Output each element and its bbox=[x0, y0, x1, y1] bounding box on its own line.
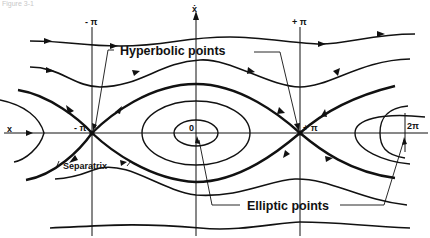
arrow-icon bbox=[318, 41, 326, 47]
arrow-icon bbox=[44, 38, 52, 44]
rotating-trajectories bbox=[30, 34, 415, 229]
separatrix-arrows bbox=[66, 105, 333, 166]
hyperbolic-points-label: Hyperbolic points bbox=[120, 44, 226, 58]
x-axis-label: x bbox=[7, 124, 12, 134]
neg-pi-axis-label: - π bbox=[74, 123, 86, 133]
arrow-icon bbox=[110, 43, 118, 49]
leader-lines bbox=[57, 50, 404, 205]
arrow-icon bbox=[283, 150, 290, 158]
arrow-icon bbox=[46, 67, 54, 73]
arrow-icon bbox=[120, 160, 127, 166]
arrow-icon bbox=[247, 67, 255, 74]
x-axis-arrow-icon bbox=[26, 130, 33, 136]
pos-pi-top-label: + π bbox=[292, 17, 307, 27]
arrow-icon bbox=[277, 107, 285, 114]
separatrix-label: Separatrix bbox=[63, 161, 107, 171]
elliptic-points-label: Elliptic points bbox=[247, 199, 329, 213]
two-pi-label: 2π bbox=[407, 121, 419, 131]
arrow-icon bbox=[402, 137, 407, 145]
xdot-axis-label: ẋ bbox=[192, 4, 197, 14]
pos-pi-axis-label: + π bbox=[303, 123, 318, 133]
phase-portrait-diagram: ẋ - π + π x - π + π 0 2π Hyperbolic poin… bbox=[0, 0, 430, 238]
arrow-icon bbox=[333, 68, 340, 76]
origin-label: 0 bbox=[189, 123, 194, 133]
hyperbolic-point-neg-pi bbox=[90, 131, 95, 136]
neg-pi-top-label: - π bbox=[85, 17, 97, 27]
arrow-icon bbox=[132, 70, 140, 76]
hyperbolic-point-pos-pi bbox=[298, 131, 303, 136]
